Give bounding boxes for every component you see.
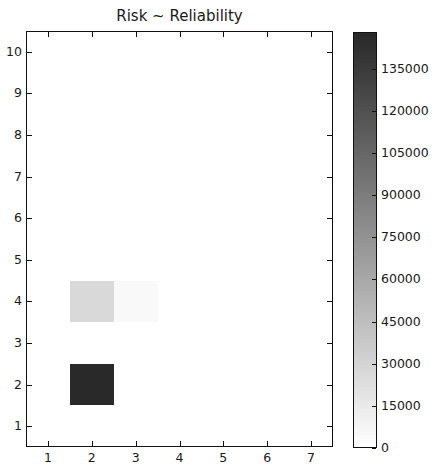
x-tick-label: 4 (170, 451, 190, 465)
heatmap-cell (70, 281, 114, 323)
x-tick (311, 32, 312, 37)
x-tick-label: 2 (82, 451, 102, 465)
y-tick (327, 218, 332, 219)
y-tick (27, 218, 32, 219)
y-tick-label: 8 (2, 128, 22, 142)
y-tick-label: 3 (2, 336, 22, 350)
colorbar-tick (372, 322, 376, 323)
colorbar-tick (372, 111, 376, 112)
y-tick (27, 177, 32, 178)
colorbar-tick-label: 30000 (381, 357, 421, 371)
x-tick (92, 32, 93, 37)
y-tick (327, 385, 332, 386)
colorbar-tick-label: 75000 (381, 230, 421, 244)
x-tick (180, 441, 181, 446)
plot-axes (26, 31, 333, 447)
x-tick (48, 32, 49, 37)
x-tick-label: 6 (257, 451, 277, 465)
colorbar (353, 32, 377, 448)
y-tick (327, 52, 332, 53)
y-tick-label: 4 (2, 294, 22, 308)
colorbar-tick (372, 153, 376, 154)
colorbar-tick (372, 448, 376, 449)
colorbar-tick (372, 237, 376, 238)
x-tick (136, 32, 137, 37)
x-tick-label: 7 (301, 451, 321, 465)
y-tick (327, 343, 332, 344)
x-tick-label: 1 (38, 451, 58, 465)
y-tick (27, 301, 32, 302)
x-tick (48, 441, 49, 446)
colorbar-tick-label: 15000 (381, 399, 421, 413)
x-tick (223, 32, 224, 37)
y-tick-label: 2 (2, 378, 22, 392)
y-tick (327, 260, 332, 261)
heatmap-cell (114, 281, 158, 323)
colorbar-tick-label: 90000 (381, 188, 421, 202)
x-tick (267, 32, 268, 37)
heatmap-cell (70, 364, 114, 406)
y-tick (327, 135, 332, 136)
y-tick-label: 9 (2, 86, 22, 100)
x-tick (223, 441, 224, 446)
y-tick (27, 426, 32, 427)
colorbar-tick (372, 279, 376, 280)
y-tick (27, 343, 32, 344)
y-tick-label: 7 (2, 170, 22, 184)
y-tick-label: 1 (2, 419, 22, 433)
colorbar-tick (372, 69, 376, 70)
colorbar-tick-label: 105000 (381, 146, 429, 160)
x-tick (92, 441, 93, 446)
y-tick-label: 5 (2, 253, 22, 267)
y-tick (327, 301, 332, 302)
x-tick-label: 5 (213, 451, 233, 465)
colorbar-tick-label: 0 (381, 441, 389, 455)
y-tick (27, 93, 32, 94)
colorbar-tick (372, 406, 376, 407)
colorbar-tick-label: 135000 (381, 62, 429, 76)
x-tick (136, 441, 137, 446)
y-tick (27, 385, 32, 386)
y-tick (327, 93, 332, 94)
colorbar-tick (372, 364, 376, 365)
chart-title: Risk ~ Reliability (26, 6, 333, 26)
y-tick-label: 6 (2, 211, 22, 225)
y-tick (27, 52, 32, 53)
colorbar-tick-label: 120000 (381, 104, 429, 118)
x-tick (180, 32, 181, 37)
colorbar-tick (372, 195, 376, 196)
colorbar-tick-label: 45000 (381, 315, 421, 329)
y-tick (27, 135, 32, 136)
x-tick (311, 441, 312, 446)
y-tick-label: 10 (2, 45, 22, 59)
y-tick (327, 177, 332, 178)
y-tick (27, 260, 32, 261)
x-tick (267, 441, 268, 446)
x-tick-label: 3 (126, 451, 146, 465)
colorbar-tick-label: 60000 (381, 272, 421, 286)
y-tick (327, 426, 332, 427)
